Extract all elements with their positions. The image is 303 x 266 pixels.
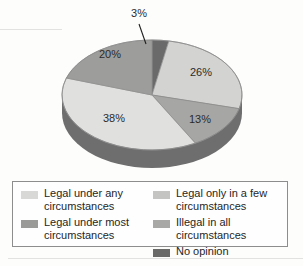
legend-item-illegal-all[interactable]: Illegal in all circumstances — [153, 216, 287, 242]
legend-swatch-no-opinion — [153, 249, 170, 257]
legend-label-legal-under-any: Legal under any circumstances — [44, 187, 123, 213]
legend-item-no-opinion[interactable]: No opinion — [153, 245, 287, 258]
legend-swatch-legal-only-few — [153, 191, 170, 199]
pie-slice-value-label: 38% — [103, 112, 125, 124]
legend-item-legal-under-most[interactable]: Legal under most circumstances — [21, 216, 149, 242]
legend-label-illegal-all: Illegal in all circumstances — [176, 216, 287, 242]
legend-swatch-illegal-all — [153, 220, 170, 228]
legend-label-legal-only-few: Legal only in a few circumstances — [176, 187, 267, 213]
pie-slice-value-label: 20% — [99, 48, 121, 60]
pie-slice-value-label: 3% — [131, 7, 147, 19]
pie-graphic: 3%26%13%38%20% — [0, 0, 303, 178]
legend-swatch-legal-under-most — [21, 220, 38, 228]
pie-slice-value-label: 13% — [189, 113, 211, 125]
legend-grid: Legal under any circumstances Legal unde… — [13, 182, 287, 246]
pie-slice-value-label: 26% — [190, 66, 212, 78]
pie-slices — [62, 40, 242, 150]
legend-item-legal-only-few[interactable]: Legal only in a few circumstances — [153, 187, 287, 213]
legend-column-left: Legal under any circumstances Legal unde… — [21, 187, 149, 245]
legend-label-legal-under-most: Legal under most circumstances — [44, 216, 129, 242]
legend-swatch-legal-under-any — [21, 191, 38, 199]
legend-item-legal-under-any[interactable]: Legal under any circumstances — [21, 187, 149, 213]
pie-svg: 3%26%13%38%20% — [0, 0, 303, 178]
legend-box: Legal under any circumstances Legal unde… — [12, 181, 288, 247]
legend-label-no-opinion: No opinion — [176, 245, 229, 258]
legend-column-right: Legal only in a few circumstances Illega… — [153, 187, 287, 261]
pie-chart-figure: 3%26%13%38%20% Legal under any circumsta… — [0, 0, 303, 266]
